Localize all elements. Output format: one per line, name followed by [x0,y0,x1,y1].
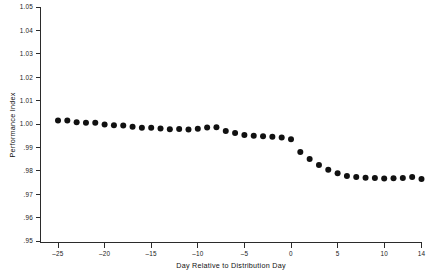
y-tick-label: 1.00 [20,120,33,127]
y-tick-label: .95 [24,237,34,244]
y-tick-label: 1.02 [20,74,33,81]
data-point [325,167,331,173]
x-tick-label: 0 [289,250,293,257]
x-tick-label: –5 [241,250,249,257]
data-point [344,173,350,179]
y-tick-label: .96 [24,214,34,221]
data-point [232,130,238,136]
data-point [92,120,98,126]
x-tick-label: –20 [99,250,111,257]
data-point [223,128,229,134]
chart-background [0,0,434,275]
data-point [418,176,424,182]
data-point [241,132,247,138]
x-axis-title: Day Relative to Distribution Day [176,261,286,270]
data-point [167,126,173,132]
data-point [288,136,294,142]
data-point [130,124,136,130]
y-tick-label: 1.03 [20,50,33,57]
data-point [316,162,322,168]
data-point [279,135,285,141]
data-point [111,122,117,128]
data-point [74,119,80,125]
x-tick-label: –25 [52,250,64,257]
x-tick-label: 10 [380,250,388,257]
y-tick-label: .99 [24,144,34,151]
data-point [195,126,201,132]
x-tick-label: 5 [336,250,340,257]
performance-index-scatter-chart: .95.96.97.98.991.001.011.021.031.041.05 … [0,0,434,275]
x-tick-label: –10 [192,250,204,257]
data-point [102,121,108,127]
data-point [139,125,145,131]
data-point [176,126,182,132]
data-point [363,175,369,181]
y-tick-label: .97 [24,191,34,198]
data-point [307,156,313,162]
data-point [400,175,406,181]
data-point [381,176,387,182]
data-point [372,175,378,181]
y-tick-label: .98 [24,167,34,174]
x-tick-label: –15 [146,250,158,257]
data-point [260,133,266,139]
y-tick-label: 1.01 [20,97,33,104]
data-point [391,175,397,181]
x-tick-label: 14 [418,250,426,257]
data-point [83,120,89,126]
data-point [353,174,359,180]
data-point [269,134,275,140]
data-point [204,125,210,131]
data-point [120,122,126,128]
data-point [55,117,61,123]
y-tick-label: 1.05 [20,3,33,10]
data-point [148,125,154,131]
data-point [185,126,191,132]
y-axis-title: Performance Index [8,92,17,157]
data-point [335,170,341,176]
data-point [213,124,219,130]
data-point [409,174,415,180]
data-point [297,149,303,155]
data-point [158,125,164,131]
data-point [64,117,70,123]
data-point [251,133,257,139]
y-tick-label: 1.04 [20,27,33,34]
